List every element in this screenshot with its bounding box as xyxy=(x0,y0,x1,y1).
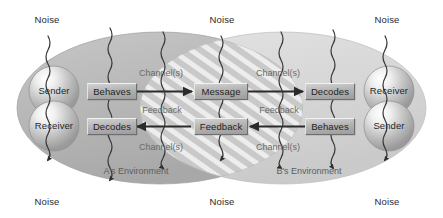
diagram-canvas: Noise Noise Noise Noise Noise Noise Send… xyxy=(0,0,443,218)
sphere-label-left-receiver: Receiver xyxy=(28,120,80,131)
feedback-label-left: Feedback xyxy=(133,105,191,115)
sphere-label-left-sender: Sender xyxy=(30,85,78,96)
feedback-label-right: Feedback xyxy=(250,105,308,115)
noise-label-top-right: Noise xyxy=(365,14,409,25)
diagram-vector-layer xyxy=(0,0,443,218)
environment-label-b: B's Environment xyxy=(269,166,349,176)
noise-label-bottom-left: Noise xyxy=(25,196,69,207)
box-right-behaves[interactable]: Behaves xyxy=(305,118,355,135)
box-left-decodes[interactable]: Decodes xyxy=(87,118,137,135)
sphere-label-right-sender: Sender xyxy=(365,120,413,131)
box-left-behaves[interactable]: Behaves xyxy=(87,83,137,100)
noise-label-bottom-right: Noise xyxy=(365,196,409,207)
channel-label-top-right: Channel(s) xyxy=(248,68,308,78)
channel-label-bottom-left: Channel(s) xyxy=(131,142,191,152)
channel-label-bottom-right: Channel(s) xyxy=(248,142,308,152)
sphere-label-right-receiver: Receiver xyxy=(363,85,415,96)
environment-label-a: A's Environment xyxy=(96,166,176,176)
box-right-decodes[interactable]: Decodes xyxy=(305,83,355,100)
box-feedback[interactable]: Feedback xyxy=(194,118,248,135)
box-message[interactable]: Message xyxy=(194,83,248,100)
noise-label-top-center: Noise xyxy=(200,14,244,25)
noise-label-bottom-center: Noise xyxy=(200,196,244,207)
channel-label-top-left: Channel(s) xyxy=(131,68,191,78)
noise-label-top-left: Noise xyxy=(25,14,69,25)
